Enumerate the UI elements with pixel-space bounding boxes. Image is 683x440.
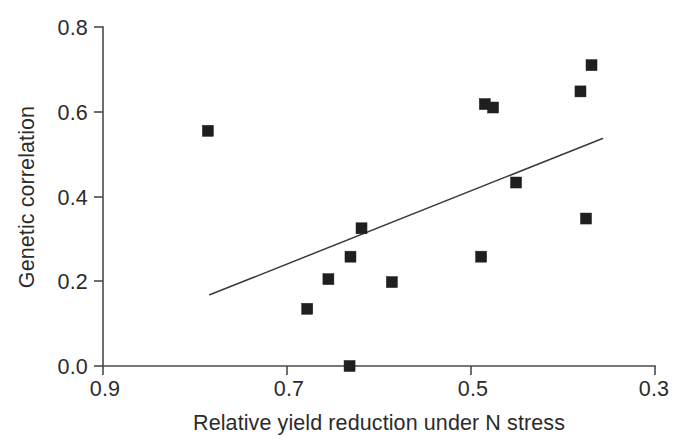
y-tick-label-1: 0.2 (58, 270, 89, 294)
data-point (476, 251, 487, 262)
data-point (575, 86, 586, 97)
data-point (323, 274, 334, 285)
x-tick-label-2: 0.5 (458, 377, 489, 401)
data-point (581, 213, 592, 224)
data-point (386, 277, 397, 288)
x-axis-ticks (103, 366, 655, 375)
y-tick-label-4: 0.8 (58, 16, 89, 40)
chart-figure: 0.0 0.2 0.4 0.6 0.8 0.9 0.7 0.5 0.3 Rela… (0, 0, 683, 440)
scatter-plot: 0.0 0.2 0.4 0.6 0.8 0.9 0.7 0.5 0.3 Rela… (0, 0, 683, 440)
x-tick-label-3: 0.3 (639, 377, 670, 401)
trend-line (210, 138, 603, 294)
data-point (344, 361, 355, 372)
y-tick-label-3: 0.6 (58, 101, 89, 125)
y-tick-label-0: 0.0 (58, 355, 89, 379)
y-axis-ticks (94, 27, 103, 366)
y-tick-label-2: 0.4 (58, 186, 89, 210)
data-point (488, 102, 499, 113)
data-point (302, 303, 313, 314)
x-tick-label-1: 0.7 (274, 377, 305, 401)
x-tick-label-0: 0.9 (90, 377, 121, 401)
data-point (586, 60, 597, 71)
x-axis-title: Relative yield reduction under N stress (193, 411, 565, 435)
data-point (511, 177, 522, 188)
data-point (202, 125, 213, 136)
data-point (345, 251, 356, 262)
data-point-group (202, 60, 597, 372)
y-axis-title: Genetic correlation (15, 106, 39, 288)
data-point (356, 223, 367, 234)
